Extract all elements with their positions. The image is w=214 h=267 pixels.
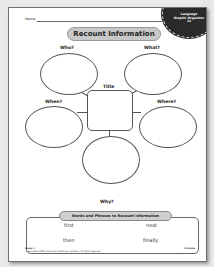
where-label: Where? [157, 99, 176, 104]
when-label: When? [45, 99, 62, 104]
worksheet-page: Name Language Graphic Organizer 11 Recou… [8, 7, 207, 262]
graphic-organizer-badge: Language Graphic Organizer 11 [162, 7, 207, 38]
words-box-title: Words and Phrases to Recount Information [59, 211, 172, 221]
word-finally: finally [143, 237, 158, 243]
words-box [26, 217, 199, 254]
title-label: Title [103, 84, 114, 89]
why-label: Why? [100, 199, 114, 204]
footer-printable: Printable [184, 247, 195, 250]
what-oval[interactable] [124, 53, 182, 95]
badge-line-3: 11 [169, 20, 207, 24]
who-label: Who? [60, 45, 74, 50]
worksheet-title: Recount Information [67, 27, 161, 41]
footer-copyright: © Houghton Mifflin Harcourt Publishing C… [25, 250, 101, 253]
connector-when [77, 112, 87, 113]
title-box[interactable] [87, 90, 133, 131]
word-then: then [63, 237, 74, 243]
badge-text: Language Graphic Organizer 11 [169, 13, 207, 24]
what-label: What? [144, 45, 160, 50]
when-oval[interactable] [25, 106, 83, 148]
name-label: Name [25, 17, 35, 21]
word-first: first [64, 222, 74, 228]
why-oval[interactable] [82, 136, 140, 184]
name-line [37, 21, 162, 22]
who-oval[interactable] [40, 53, 98, 95]
where-oval[interactable] [139, 106, 197, 148]
word-next: next [146, 222, 157, 228]
